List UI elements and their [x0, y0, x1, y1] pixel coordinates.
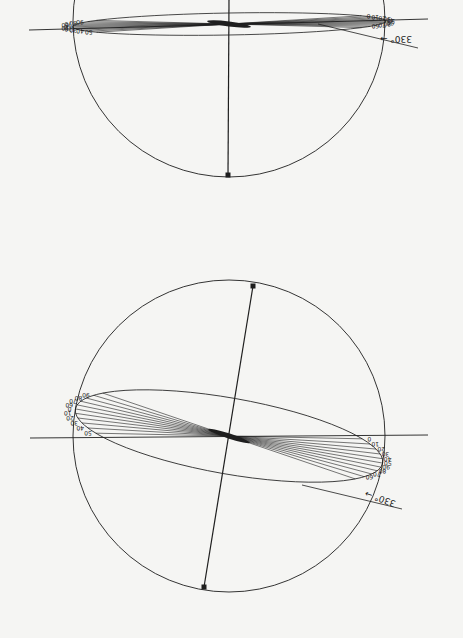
bottom-tick-label: 90 — [82, 392, 90, 399]
bottom-axis-end-marker — [202, 585, 207, 590]
diagram-canvas: 5004010302020301040050609070808070906033… — [0, 0, 463, 638]
top-tick-label: 10 — [371, 14, 379, 21]
top-tick-label: 90 — [76, 19, 84, 26]
top-tick-label: 60 — [371, 23, 379, 30]
top-tick-label: 80 — [69, 20, 77, 27]
bottom-axis-end-marker — [251, 284, 256, 289]
top-angle-label: 330° → — [379, 34, 412, 44]
bottom-tick-label: 60 — [365, 474, 373, 481]
top-tick-label: 0 — [366, 13, 370, 20]
polarization-diagram: 5004010302020301040050609070808070906033… — [0, 0, 463, 638]
bottom-tick-label: 0 — [367, 436, 371, 443]
bottom-tick-label: 80 — [75, 395, 83, 402]
top-axis-end-marker — [226, 173, 231, 178]
bottom-tick-label: 50 — [84, 430, 92, 437]
